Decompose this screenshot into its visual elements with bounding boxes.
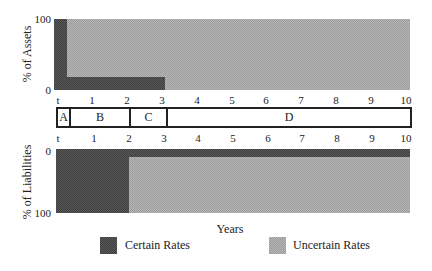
tick-8: 8 xyxy=(329,133,345,144)
legend: Certain Rates Uncertain Rates xyxy=(100,237,420,257)
tick-6: 6 xyxy=(258,95,274,106)
assets-plot xyxy=(54,19,410,90)
legend-certain-label: Certain Rates xyxy=(125,237,190,254)
tick-5: 5 xyxy=(225,133,241,144)
period-b-label: B xyxy=(96,110,104,125)
period-d: D xyxy=(168,109,410,126)
period-c-label: C xyxy=(144,110,152,125)
tick-7: 7 xyxy=(293,95,309,106)
period-c: C xyxy=(131,109,168,126)
tick-2: 2 xyxy=(119,95,135,106)
liabilities-certain-block xyxy=(56,149,129,213)
liabilities-axis-label: % of Liabilities xyxy=(21,127,33,237)
legend-certain-swatch xyxy=(100,237,117,254)
period-d-label: D xyxy=(285,110,294,125)
period-a-label: A xyxy=(59,110,68,125)
assets-y-tick-0: 0 xyxy=(27,85,51,96)
tick-t: t xyxy=(50,95,66,106)
tick-4: 4 xyxy=(190,133,206,144)
liab-y-tick-0: 0 xyxy=(27,146,51,157)
period-b: B xyxy=(71,109,131,126)
tick-7: 7 xyxy=(294,133,310,144)
assets-y-tick-100: 100 xyxy=(27,14,51,25)
period-a: A xyxy=(58,109,71,126)
tick-1: 1 xyxy=(86,133,102,144)
tick-t: t xyxy=(50,133,66,144)
tick-10: 10 xyxy=(398,133,414,144)
tick-8: 8 xyxy=(328,95,344,106)
tick-3: 3 xyxy=(154,95,170,106)
legend-uncertain-swatch xyxy=(269,237,286,254)
tick-4: 4 xyxy=(189,95,205,106)
liab-y-tick-100: 100 xyxy=(27,208,51,219)
legend-uncertain-label: Uncertain Rates xyxy=(293,237,370,254)
tick-1: 1 xyxy=(84,95,100,106)
tick-6: 6 xyxy=(260,133,276,144)
tick-9: 9 xyxy=(364,133,380,144)
assets-certain-horizontal xyxy=(54,77,165,90)
x-axis-title: Years xyxy=(200,222,260,237)
period-timeline: A B C D xyxy=(56,107,412,128)
tick-3: 3 xyxy=(156,133,172,144)
tick-10: 10 xyxy=(398,95,414,106)
tick-5: 5 xyxy=(224,95,240,106)
liabilities-plot xyxy=(56,149,410,213)
tick-2: 2 xyxy=(121,133,137,144)
tick-9: 9 xyxy=(363,95,379,106)
